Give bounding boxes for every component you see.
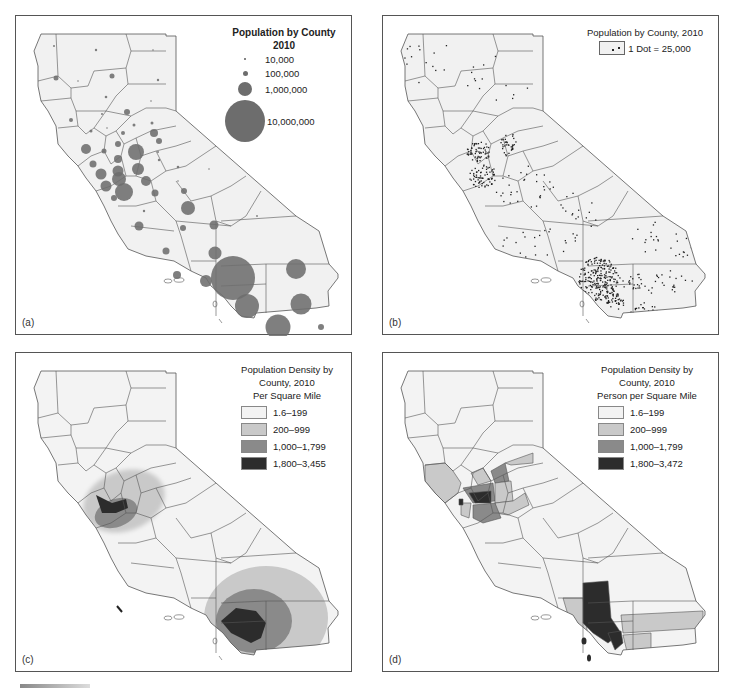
legend-item: 1,800–3,472 <box>598 457 710 470</box>
legend-title: Population by County, 2010 <box>580 26 710 39</box>
legend-label: 10,000,000 <box>267 116 315 127</box>
legend-label: 1,800–3,455 <box>273 458 326 469</box>
caption-accent-bar <box>20 684 90 688</box>
legend-item: 1.6–199 <box>241 406 343 419</box>
legend-label: 200–999 <box>630 424 667 435</box>
legend-title-line-3: Per Square Mile <box>231 389 343 402</box>
legend-label: 1 Dot = 25,000 <box>628 43 691 54</box>
california-county-map <box>383 16 720 336</box>
legend-label: 1.6–199 <box>273 407 307 418</box>
symbol-10000000-icon <box>225 100 265 142</box>
dot-density-legend: Population by County, 2010 1 Dot = 25,00… <box>580 26 710 55</box>
legend-label: 100,000 <box>265 68 299 79</box>
legend-item: 1 Dot = 25,000 <box>580 41 710 55</box>
symbol-1000000-icon <box>238 82 252 96</box>
legend-item: 10,000 <box>225 52 343 66</box>
proportional-symbol-legend: Population by County 2010 10,000 100,000… <box>225 26 343 144</box>
choropleth-legend: Population Density by County, 2010 Perso… <box>584 363 710 470</box>
class-3-swatch <box>598 440 624 453</box>
legend-item: 1,000–1,799 <box>598 440 710 453</box>
legend-title-line-2: County, 2010 <box>231 376 343 389</box>
class-2-swatch <box>241 423 267 436</box>
class-1-swatch <box>241 406 267 419</box>
legend-label: 200–999 <box>273 424 310 435</box>
legend-item: 10,000,000 <box>225 98 343 144</box>
class-4-swatch <box>241 457 267 470</box>
legend-label: 1,800–3,472 <box>630 458 683 469</box>
legend-title-line-1: Population Density by <box>231 363 343 376</box>
class-4-swatch <box>598 457 624 470</box>
legend-label: 1.6–199 <box>630 407 664 418</box>
panel-letter: (a) <box>22 317 34 328</box>
dot-key-icon <box>599 41 625 55</box>
legend-label: 1,000–1,799 <box>273 441 326 452</box>
symbol-100000-icon <box>243 71 248 76</box>
legend-item: 1,800–3,455 <box>241 457 343 470</box>
legend-label: 1,000–1,799 <box>630 441 683 452</box>
isopleth-legend: Population Density by County, 2010 Per S… <box>231 363 343 470</box>
class-1-swatch <box>598 406 624 419</box>
legend-item: 200–999 <box>241 423 343 436</box>
legend-item: 200–999 <box>598 423 710 436</box>
panel-dot-density-map: Population by County, 2010 1 Dot = 25,00… <box>382 15 719 335</box>
legend-title: Population by County 2010 <box>225 26 343 52</box>
legend-item: 1,000,000 <box>225 80 343 98</box>
panel-proportional-symbol-map: Population by County 2010 10,000 100,000… <box>15 15 352 335</box>
class-3-swatch <box>241 440 267 453</box>
panel-choropleth-map: Population Density by County, 2010 Perso… <box>382 352 719 672</box>
legend-title-line-2: County, 2010 <box>584 376 710 389</box>
panel-letter: (c) <box>22 654 34 665</box>
legend-item: 1.6–199 <box>598 406 710 419</box>
symbol-10000-icon <box>244 58 246 60</box>
legend-title-line-1: Population Density by <box>584 363 710 376</box>
legend-item: 1,000–1,799 <box>241 440 343 453</box>
legend-label: 10,000 <box>265 54 294 65</box>
panel-letter: (d) <box>389 654 401 665</box>
panel-isopleth-map: Population Density by County, 2010 Per S… <box>15 352 352 672</box>
class-2-swatch <box>598 423 624 436</box>
legend-title-line-3: Person per Square Mile <box>584 389 710 402</box>
legend-item: 100,000 <box>225 66 343 80</box>
panel-letter: (b) <box>389 317 401 328</box>
legend-label: 1,000,000 <box>265 84 307 95</box>
